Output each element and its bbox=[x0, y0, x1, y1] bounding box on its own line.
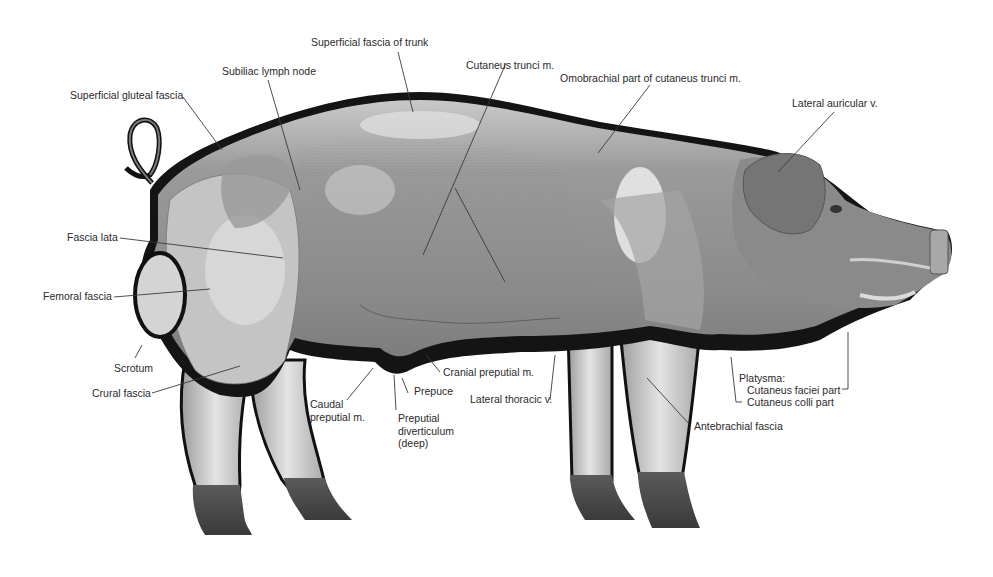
label-omobrachial-part: Omobrachial part of cutaneus trunci m. bbox=[560, 72, 741, 85]
label-crural-fascia: Crural fascia bbox=[92, 387, 151, 400]
leader-superficial-gluteal-fascia bbox=[183, 97, 222, 150]
leader-cutaneus-faciei bbox=[842, 332, 848, 389]
label-preputial-diverticulum: Preputial diverticulum (deep) bbox=[398, 412, 454, 450]
label-scrotum: Scrotum bbox=[114, 362, 153, 375]
label-cranial-preputial-muscle: Cranial preputial m. bbox=[443, 366, 534, 379]
label-platysma: Platysma: bbox=[739, 372, 785, 385]
label-prepuce: Prepuce bbox=[414, 385, 453, 398]
label-cutaneus-faciei-part: Cutaneus faciei part bbox=[747, 384, 840, 397]
label-lateral-thoracic-vein: Lateral thoracic v. bbox=[470, 393, 552, 406]
label-fascia-lata: Fascia lata bbox=[67, 231, 118, 244]
leader-scrotum bbox=[135, 345, 142, 358]
label-subiliac-lymph-node: Subiliac lymph node bbox=[222, 65, 316, 78]
label-caudal-preputial-muscle: Caudal preputial m. bbox=[310, 398, 365, 423]
front-legs bbox=[568, 330, 700, 528]
label-lateral-auricular-vein: Lateral auricular v. bbox=[792, 97, 878, 110]
label-antebrachial-fascia: Antebrachial fascia bbox=[694, 420, 783, 433]
label-superficial-gluteal-fascia: Superficial gluteal fascia bbox=[70, 89, 183, 102]
leader-preputial-diverticulum bbox=[394, 375, 396, 410]
leader-prepuce bbox=[402, 378, 408, 393]
label-cutaneus-trunci: Cutaneus trunci m. bbox=[466, 59, 554, 72]
label-cutaneus-colli-part: Cutaneus colli part bbox=[747, 396, 834, 409]
label-superficial-fascia-of-trunk: Superficial fascia of trunk bbox=[311, 36, 428, 49]
pig-anatomy-illustration bbox=[0, 0, 993, 577]
leader-caudal-preputial bbox=[347, 368, 373, 400]
label-femoral-fascia: Femoral fascia bbox=[43, 290, 112, 303]
